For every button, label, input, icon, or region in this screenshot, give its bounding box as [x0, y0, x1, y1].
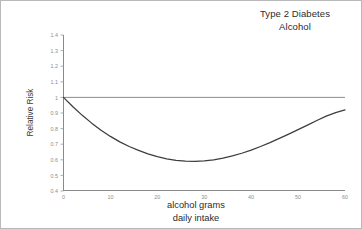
y-tick-label: 0.9 — [51, 110, 59, 116]
y-tick-label: 0.5 — [51, 173, 59, 179]
x-tick-label: 0 — [62, 194, 65, 200]
y-tick-label: 0.8 — [51, 126, 59, 132]
y-tick-label: 0.6 — [51, 157, 59, 163]
y-tick-label: 1.2 — [51, 63, 59, 69]
y-tick-label: 1.1 — [51, 79, 59, 85]
x-axis-title-line-2: daily intake — [111, 212, 281, 225]
axis-lines — [64, 35, 346, 191]
y-tick-label: 1.3 — [51, 48, 59, 54]
chart-figure: Type 2 Diabetes Alcohol 1.4 1.3 1.2 1.1 … — [0, 0, 362, 229]
y-tick-label: 0.7 — [51, 141, 59, 147]
x-tick-label: 60 — [342, 194, 348, 200]
y-tick-label: 1 — [55, 95, 58, 101]
y-tick-label: 1.4 — [51, 32, 59, 38]
plot-area: 1.4 1.3 1.2 1.1 1 0.9 0.8 0.7 0.6 0.5 0.… — [1, 1, 362, 229]
y-tick-labels: 1.4 1.3 1.2 1.1 1 0.9 0.8 0.7 0.6 0.5 0.… — [51, 32, 59, 194]
x-tick-label: 50 — [295, 194, 301, 200]
y-axis-title: Relative Risk — [26, 68, 35, 158]
y-tick-label: 0.4 — [51, 188, 59, 194]
x-axis-title-line-1: alcohol grams — [111, 199, 281, 212]
relative-risk-curve — [64, 97, 346, 161]
x-axis-title: alcohol grams daily intake — [111, 199, 281, 224]
